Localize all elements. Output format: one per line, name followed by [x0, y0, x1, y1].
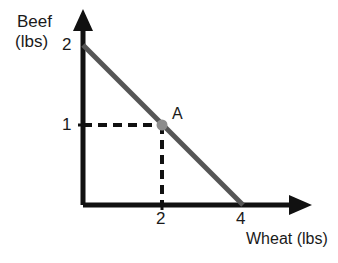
- x-axis-label: Wheat (lbs): [246, 231, 328, 247]
- x-axis-arrow-icon: [289, 195, 312, 215]
- ppf-chart-figure: Beef (lbs) Wheat (lbs) 2 1 2 4 A: [0, 0, 338, 263]
- x-tick-label-4: 4: [236, 210, 245, 227]
- x-tick-label-2: 2: [156, 210, 165, 227]
- y-axis-label-line-2: (lbs): [15, 33, 48, 50]
- point-a-marker: [157, 120, 168, 131]
- y-axis-label-line-1: Beef: [17, 13, 52, 30]
- y-axis-arrow-icon: [73, 9, 93, 31]
- point-a-label: A: [172, 106, 183, 122]
- chart-plot-area: [0, 0, 338, 263]
- y-tick-label-2: 2: [62, 36, 71, 53]
- y-tick-label-1: 1: [62, 116, 71, 133]
